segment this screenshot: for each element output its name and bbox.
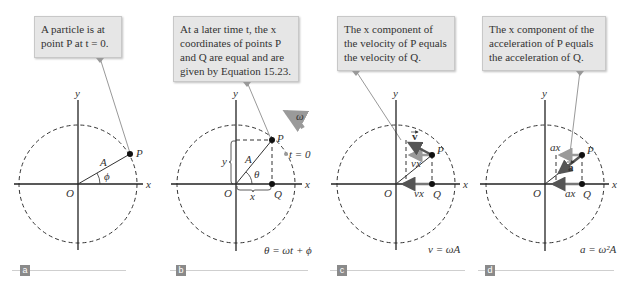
panel-d: y x O P Q a ax ax a = ω²A (480, 71, 617, 255)
radius-label-b: A (244, 153, 252, 165)
equation-d: a = ω²A (580, 243, 616, 255)
panel-c-rule (330, 270, 465, 271)
y-label-a: y (74, 87, 80, 99)
origin-label-d: O (533, 187, 541, 199)
radius-label-a: A (99, 156, 107, 168)
origin-label-c: O (384, 187, 392, 199)
point-p-d (579, 152, 585, 158)
panel-a-tag: a (20, 265, 30, 276)
point-p-c (429, 152, 435, 158)
x-label-c: x (462, 178, 468, 190)
panel-d-tag: d (485, 265, 495, 276)
q-label-d: Q (583, 188, 591, 200)
callout-d-pointer (570, 71, 580, 153)
point-q-c (429, 181, 435, 187)
origin-label-b: O (224, 187, 232, 199)
x-brace-label: x (249, 190, 255, 202)
point-p-b (269, 137, 275, 143)
callout-a-tip (96, 58, 104, 63)
callout-b-tip (243, 82, 251, 87)
p-label-c: P (436, 144, 444, 156)
p-label-a: P (135, 147, 143, 159)
theta-label: θ (254, 168, 260, 180)
panel-d-rule (478, 270, 614, 271)
x-label-a: x (145, 178, 151, 190)
panel-b-tag: b (176, 265, 186, 276)
t0-marker (284, 152, 288, 156)
panel-c-tag: c (337, 265, 347, 276)
omega-label: ω (296, 110, 304, 122)
vx-label-top: vx (411, 157, 421, 169)
a-vector-label: a (568, 161, 574, 173)
p-label-b: P (276, 132, 284, 144)
x-label-b: x (304, 178, 310, 190)
angle-arc-phi (97, 173, 100, 184)
panel-c: y x O P Q v vx vx v = ωA (331, 71, 468, 255)
q-label-b: Q (274, 188, 282, 200)
ax-label-top: ax (550, 141, 561, 153)
point-q-d (579, 181, 585, 187)
origin-label-a: O (66, 187, 74, 199)
ax-label-bottom: ax (565, 187, 576, 199)
phi-label: ϕ (104, 170, 110, 182)
y-label-d: y (541, 87, 547, 99)
velocity-vector (409, 143, 432, 155)
y-brace (229, 141, 236, 184)
x-label-d: x (611, 178, 617, 190)
point-p-a (127, 151, 133, 157)
callout-b-pointer (247, 82, 271, 139)
equation-c: v = ωA (428, 243, 461, 255)
panel-b: y x O P Q A θ y x ω t = 0 θ = ωt + ϕ (171, 82, 312, 256)
diagram-canvas: y x O P A ϕ y x O P Q A θ y x ω t = (0, 0, 632, 289)
point-q-b (269, 181, 275, 187)
panel-a: y x O P A ϕ (14, 58, 151, 250)
p-label-d: P (586, 144, 594, 156)
callout-c-pointer (356, 71, 401, 140)
y-brace-label: y (221, 155, 227, 167)
t0-label: t = 0 (289, 148, 311, 160)
q-label-c: Q (433, 188, 441, 200)
vx-label-bottom: vx (414, 187, 424, 199)
callout-a-pointer (100, 58, 130, 153)
panel-b-rule (170, 270, 308, 271)
y-label-b: y (232, 87, 238, 99)
y-label-c: y (392, 87, 398, 99)
callout-d-tip (576, 71, 584, 76)
equation-b: θ = ωt + ϕ (264, 244, 312, 256)
angle-arc-theta (246, 172, 252, 184)
